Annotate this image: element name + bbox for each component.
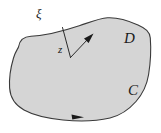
label-z: z [58, 44, 62, 55]
contour-diagram-figure: ξ z D C [0, 0, 161, 133]
label-xi: ξ [36, 7, 42, 20]
label-region-d: D [124, 31, 135, 46]
label-contour-c: C [128, 83, 138, 98]
figure-canvas [0, 0, 161, 133]
